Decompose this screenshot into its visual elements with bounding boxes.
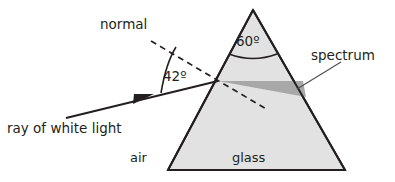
glass-label: glass <box>232 150 266 165</box>
diagram-canvas: normal 42º 60º spectrum ray of white lig… <box>0 0 395 182</box>
incident-ray-arrowhead <box>133 94 154 104</box>
incidence-angle-label: 42º <box>163 68 187 84</box>
normal-label: normal <box>100 16 147 32</box>
prism-refraction-diagram: normal 42º 60º spectrum ray of white lig… <box>0 0 395 182</box>
air-label: air <box>130 150 148 165</box>
incident-ray-label: ray of white light <box>7 120 122 136</box>
apex-angle-label: 60º <box>236 33 260 49</box>
spectrum-label: spectrum <box>311 47 375 63</box>
spectrum-leader-line <box>297 62 341 89</box>
